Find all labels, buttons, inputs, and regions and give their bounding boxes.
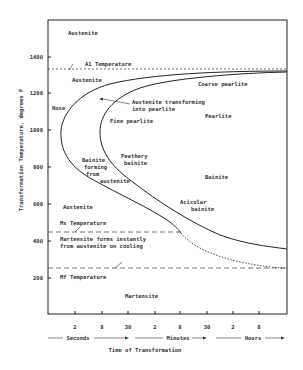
svg-text:8: 8 [178,324,181,330]
svg-text:into pearlite: into pearlite [132,106,176,113]
svg-text:Feathery: Feathery [121,153,148,160]
svg-text:30: 30 [125,324,132,330]
svg-text:Austenite: Austenite [68,30,98,36]
svg-text:2: 2 [231,324,234,330]
svg-text:Austenite transforming: Austenite transforming [132,99,205,106]
y-tick-label: 600 [33,201,43,207]
region-labels: Austenite A1 Temperature Austenite Nose … [52,30,248,299]
svg-text:Martensite forms instantly: Martensite forms instantly [60,236,147,243]
svg-text:Mf Temperature: Mf Temperature [60,274,107,281]
svg-text:austenite: austenite [100,178,130,184]
svg-text:A1 Temperature: A1 Temperature [85,61,132,68]
unit-minutes: Minutes [166,335,189,341]
x-axis: 2 8 30 2 8 30 2 8 Seconds Minutes Hours … [48,311,285,353]
svg-text:8: 8 [257,324,260,330]
svg-text:Acicular: Acicular [180,199,207,205]
svg-text:bainite: bainite [191,206,215,212]
svg-text:Austenite: Austenite [72,77,102,83]
svg-text:from austenite on cooling: from austenite on cooling [60,243,143,250]
ttt-diagram: 1400 1200 1000 800 600 400 200 Transform… [0,0,303,370]
start-curve [61,71,287,233]
svg-text:Fine pearlite: Fine pearlite [110,118,154,125]
x-axis-label: Time of Transformation [109,347,182,353]
svg-text:Austenite: Austenite [63,204,93,210]
y-axis-label: Transformation Temperature, degrees F [18,89,25,212]
svg-text:forming: forming [84,164,107,171]
start-curve-dotted [181,233,287,268]
svg-text:8: 8 [100,324,103,330]
y-tick-label: 800 [33,164,43,170]
unit-hours: Hours [245,335,262,341]
y-tick-label: 1400 [30,54,43,60]
svg-text:2: 2 [73,324,76,330]
svg-text:30: 30 [204,324,211,330]
svg-text:from: from [86,171,100,177]
y-axis: 1400 1200 1000 800 600 400 200 Transform… [18,54,51,281]
y-tick-label: 1200 [30,90,43,96]
y-tick-label: 400 [33,238,43,244]
svg-text:Bainite: Bainite [205,174,229,180]
svg-text:bainite: bainite [124,160,148,166]
svg-text:Nose: Nose [52,105,66,111]
unit-seconds: Seconds [66,335,89,341]
y-tick-label: 1000 [30,127,43,133]
svg-text:Coarse pearlite: Coarse pearlite [198,81,248,88]
svg-text:Ms Temperature: Ms Temperature [60,220,107,227]
svg-text:Pearlite: Pearlite [205,113,232,119]
svg-text:Bainite: Bainite [82,157,106,163]
y-tick-label: 200 [33,275,43,281]
svg-text:Martensite: Martensite [125,293,159,299]
svg-text:2: 2 [153,324,156,330]
